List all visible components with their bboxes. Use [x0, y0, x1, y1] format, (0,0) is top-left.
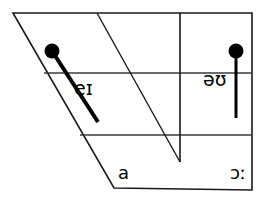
glide-start-dot-ei: [45, 44, 60, 59]
label-vowel-open-o-long: ɔː: [230, 164, 246, 182]
label-vowel-a: a: [118, 164, 129, 182]
gridline-slant-central: [97, 13, 180, 162]
label-diphthong-ou: əʊ: [203, 70, 226, 89]
label-diphthong-ei: eɪ: [74, 79, 93, 98]
vowel-quadrilateral-outline: [13, 13, 252, 190]
glide-start-dot-ou: [229, 44, 244, 59]
vowel-chart-canvas: [0, 0, 266, 202]
vowel-chart: eɪ əʊ a ɔː: [0, 0, 266, 202]
